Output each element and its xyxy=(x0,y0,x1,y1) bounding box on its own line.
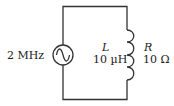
wire-left-top xyxy=(63,7,127,46)
resistor-value-label: 10 Ω xyxy=(143,53,170,66)
circuit-diagram: 2 MHz L 10 µH R 10 Ω xyxy=(0,0,174,106)
inductor-coil-icon xyxy=(127,30,134,80)
source-frequency-label: 2 MHz xyxy=(7,49,44,62)
inductor-value-label: 10 µH xyxy=(93,53,127,66)
sine-wave-icon xyxy=(57,49,70,61)
wire-left-bottom xyxy=(63,65,127,100)
